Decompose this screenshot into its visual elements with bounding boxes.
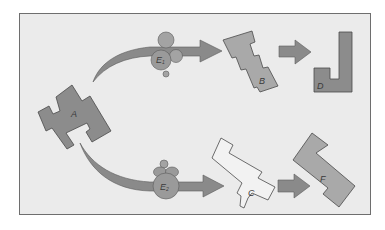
diagram-svg (0, 0, 385, 230)
diagram-canvas: A B D C F E1 E2 (0, 0, 385, 230)
